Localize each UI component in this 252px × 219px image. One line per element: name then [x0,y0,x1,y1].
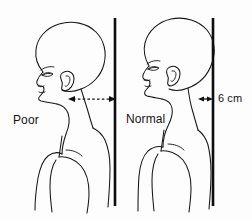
measurement-label: 6 cm [218,92,242,104]
poor-head-outline [36,22,105,91]
normal-lip-line [145,86,151,87]
poor-lip-line [39,92,45,93]
poor-shoulder-right [93,128,110,207]
poor-clavicle [66,150,82,156]
poor-ear-inner [65,76,70,87]
normal-neck-back [188,88,198,130]
poor-ear [61,71,74,91]
poor-chest-contour [50,160,56,212]
normal-ear [167,66,180,86]
posture-figures-illustration [0,0,252,219]
normal-offset-arrow [198,97,213,102]
poor-eyebrow [41,67,54,70]
normal-clavicle [168,144,184,150]
normal-shoulder-right [198,130,211,209]
normal-posture-label: Normal [126,112,165,126]
normal-eyebrow [147,61,160,64]
normal-face-profile [143,66,162,99]
normal-shoulder-left [138,147,163,211]
poor-jaw-neck-front [57,104,69,154]
poor-posture-label: Poor [13,113,39,127]
poor-neck-back [81,89,93,128]
normal-chest-contour [152,154,158,211]
poor-torso-contour [59,157,89,213]
posture-diagram-canvas: Poor Normal 6 cm [0,0,252,219]
normal-ear-inner [171,71,176,82]
poor-shoulder-left [35,153,62,210]
poor-posture-figure [35,22,110,213]
normal-torso-contour [161,151,191,212]
poor-offset-arrow [68,96,116,102]
